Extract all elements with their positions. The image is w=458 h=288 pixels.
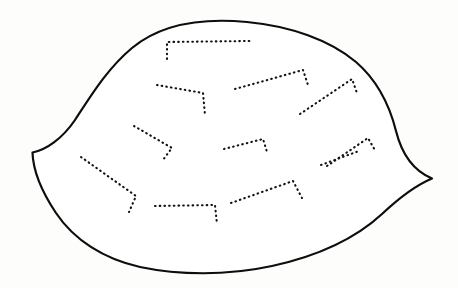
line-art-figure [0,0,458,288]
figure-canvas: Dotted-vein outline figure [0,0,458,288]
